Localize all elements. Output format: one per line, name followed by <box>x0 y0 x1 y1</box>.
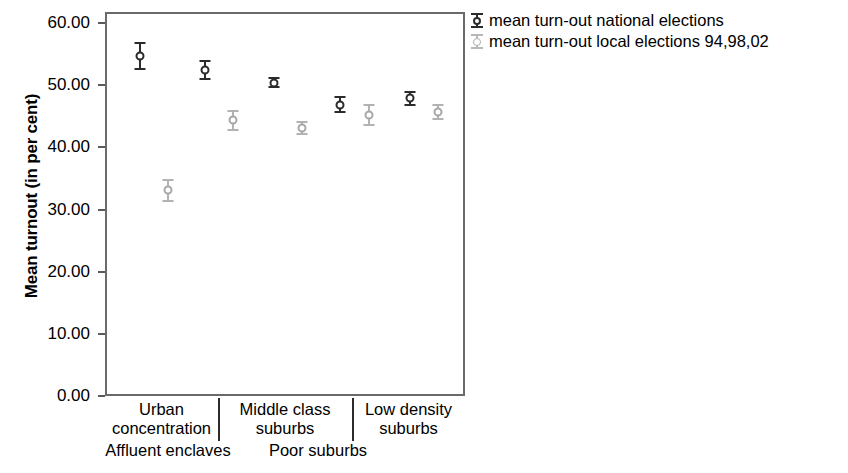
error-bar-cap-lower <box>405 104 416 106</box>
y-axis-tick-mark <box>98 395 105 397</box>
y-axis-tick-mark <box>98 271 105 273</box>
plot-area <box>105 12 465 396</box>
chart-legend: mean turn-out national electionsmean tur… <box>470 10 846 52</box>
error-bar-cap-lower <box>228 129 239 131</box>
error-bar-cap-lower <box>364 124 375 126</box>
error-bar-cap-upper <box>335 96 346 98</box>
legend-item-label: mean turn-out local elections 94,98,02 <box>489 32 769 51</box>
error-bar-cap-upper <box>364 104 375 106</box>
error-bar-cap-upper <box>228 110 239 112</box>
error-bar-chart: Mean turnout (in per cent) 0.0010.0020.0… <box>0 0 848 473</box>
legend-item-label: mean turn-out national elections <box>489 11 724 30</box>
legend-marker-icon <box>470 10 484 31</box>
y-axis-tick-label: 30.00 <box>12 200 90 220</box>
error-bar-cap-upper <box>163 179 174 181</box>
error-bar-cap-lower <box>433 118 444 120</box>
error-bar-cap-lower <box>163 200 174 202</box>
data-point-marker <box>298 124 307 133</box>
data-point-marker <box>365 111 374 120</box>
data-point-marker <box>434 108 443 117</box>
data-point-marker <box>136 52 145 61</box>
error-bar-cap-lower <box>200 78 211 80</box>
y-axis-tick-mark <box>98 84 105 86</box>
data-point-marker <box>336 100 345 109</box>
y-axis-tick-label: 20.00 <box>12 262 90 282</box>
data-point-marker <box>201 65 210 74</box>
data-point-marker <box>270 78 279 87</box>
y-axis-tick-label: 40.00 <box>12 137 90 157</box>
error-bar-cap-upper <box>405 91 416 93</box>
data-point-marker <box>164 186 173 195</box>
y-axis-tick-mark <box>98 209 105 211</box>
error-bar-cap-lower <box>297 133 308 135</box>
error-bar-cap-upper <box>433 104 444 106</box>
error-bar-cap-lower <box>335 111 346 113</box>
x-axis-subcategory-label: Poor suburbs <box>228 441 408 460</box>
y-axis-tick-label: 60.00 <box>12 13 90 33</box>
y-axis-tick-mark <box>98 22 105 24</box>
legend-item: mean turn-out local elections 94,98,02 <box>470 31 846 52</box>
y-axis-tick-label: 10.00 <box>12 324 90 344</box>
y-axis-tick-label: 0.00 <box>12 386 90 406</box>
error-bar-cap-lower <box>135 68 146 70</box>
y-axis-tick-mark <box>98 146 105 148</box>
data-point-marker <box>229 116 238 125</box>
legend-marker-icon <box>470 31 484 52</box>
y-axis-tick-mark <box>98 333 105 335</box>
data-point-marker <box>406 94 415 103</box>
legend-item: mean turn-out national elections <box>470 10 846 31</box>
x-axis-category-label: Low density suburbs <box>338 400 479 438</box>
y-axis-tick-labels: 0.0010.0020.0030.0040.0050.0060.00 <box>12 0 90 473</box>
error-bar-cap-upper <box>200 60 211 62</box>
y-axis-tick-label: 50.00 <box>12 75 90 95</box>
error-bar-cap-upper <box>135 42 146 44</box>
